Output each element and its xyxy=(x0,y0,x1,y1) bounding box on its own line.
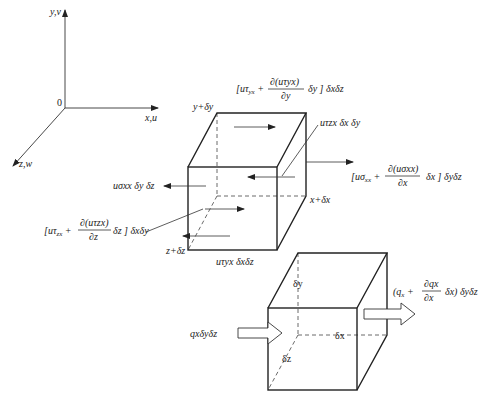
heat-out-term: (qx + ∂qx ∂x δx) δyδz xyxy=(393,278,478,303)
front-face xyxy=(268,308,357,390)
dz-label: δz xyxy=(282,353,292,364)
coordinate-axes: y,v 0 x,u z,w xyxy=(13,6,158,169)
front-face xyxy=(188,167,277,250)
right-face-label: x+δx xyxy=(309,194,331,205)
svg-text:δy ] δxδz: δy ] δxδz xyxy=(308,83,344,94)
right-normal-term: [uσxx + ∂(uσxx) ∂x δx ] δyδz xyxy=(351,163,462,188)
svg-text:∂(uσxx): ∂(uσxx) xyxy=(388,163,419,175)
svg-text:[uσxx +: [uσxx + xyxy=(351,171,380,184)
svg-text:(qx +: (qx + xyxy=(393,286,414,299)
dx-label: δx xyxy=(335,330,345,341)
diagram-canvas: y,v 0 x,u z,w y+δy x+δx z+δz uτzx δx δy … xyxy=(0,0,488,401)
x-axis-label: x,u xyxy=(144,112,157,123)
svg-text:[uτyx +: [uτyx + xyxy=(236,83,264,96)
heat-cube: δy δx δz qxδyδz (qx + ∂qx ∂x δx) δyδz xyxy=(190,253,478,390)
svg-text:∂x: ∂x xyxy=(398,177,408,188)
svg-text:∂y: ∂y xyxy=(281,90,291,101)
svg-text:∂(uτzx): ∂(uτzx) xyxy=(80,217,109,229)
svg-text:∂(uτyx): ∂(uτyx) xyxy=(270,76,300,88)
energy-balance-diagram: y,v 0 x,u z,w y+δy x+δx z+δz uτzx δx δy … xyxy=(0,0,488,401)
svg-text:[uτzx +: [uτzx + xyxy=(44,225,72,238)
stress-cube: y+δy x+δx z+δz uτzx δx δy uσxx δy δz uτy… xyxy=(44,76,462,267)
heat-out-arrow xyxy=(364,303,415,325)
bottom-shear-term: uτyx δxδz xyxy=(216,256,254,267)
svg-text:δx) δyδz: δx) δyδz xyxy=(445,286,478,298)
heat-in-arrow xyxy=(238,322,282,344)
dy-label: δy xyxy=(293,278,303,289)
top-face-label: y+δy xyxy=(192,101,214,112)
svg-text:∂z: ∂z xyxy=(89,231,98,242)
heat-in-term: qxδyδz xyxy=(190,328,217,339)
y-axis-label: y,v xyxy=(49,6,61,17)
origin-label: 0 xyxy=(57,97,62,108)
svg-text:δz ] δxδy: δz ] δxδy xyxy=(113,225,149,236)
left-normal-term: uσxx δy δz xyxy=(113,180,155,191)
top-shear-term: [uτyx + ∂(uτyx) ∂y δy ] δxδz xyxy=(236,76,344,101)
z-axis-label: z,w xyxy=(18,158,32,169)
front-term-leader xyxy=(146,209,203,232)
svg-text:∂x: ∂x xyxy=(424,292,434,303)
front-shear-term: [uτzx + ∂(uτzx) ∂z δz ] δxδy xyxy=(44,217,149,242)
svg-text:∂qx: ∂qx xyxy=(424,278,439,289)
back-term-leader xyxy=(282,125,318,176)
back-shear-term: uτzx δx δy xyxy=(320,117,361,128)
svg-text:δx ] δyδz: δx ] δyδz xyxy=(426,171,462,182)
front-face-label: z+δz xyxy=(165,245,185,256)
